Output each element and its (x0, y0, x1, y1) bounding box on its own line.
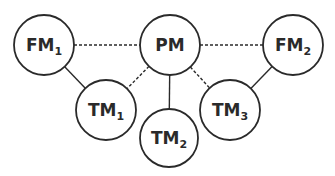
edge-pm-tm3 (190, 67, 209, 88)
edge-pm-tm1 (127, 66, 149, 88)
nodes-layer: FM1PMFM2TM1TM2TM3 (14, 15, 323, 167)
node-label: PM (155, 35, 184, 55)
node-tm3: TM3 (200, 80, 260, 140)
org-diagram: FM1PMFM2TM1TM2TM3 (0, 0, 335, 176)
node-tm2: TM2 (140, 109, 198, 167)
edge-fm2-tm3 (251, 67, 272, 89)
node-fm2: FM2 (263, 15, 323, 75)
node-tm1: TM1 (76, 80, 136, 140)
node-pm: PM (140, 15, 200, 75)
node-fm1: FM1 (14, 15, 74, 75)
edge-fm1-tm1 (65, 67, 86, 89)
